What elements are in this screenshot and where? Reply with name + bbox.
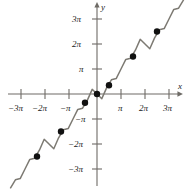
- marked-point: [154, 28, 160, 34]
- marked-point: [106, 82, 112, 88]
- marked-point: [34, 153, 40, 159]
- x-tick-label-pos3pi: 3π: [163, 104, 172, 113]
- y-tick-label-neg2pi: −2π: [68, 140, 83, 149]
- y-tick-label-pos1pi: π: [79, 65, 84, 74]
- function-graph-figure: −3π −2π −π π 2π 3π 3π 2π π −π −2π −3π x …: [0, 0, 191, 192]
- y-tick-label-neg1pi: −π: [75, 115, 86, 124]
- y-tick-label-pos3pi: 3π: [72, 15, 81, 24]
- x-tick-label-neg1pi: −π: [60, 104, 71, 113]
- x-tick-label-pos1pi: π: [118, 104, 123, 113]
- x-axis-label: x: [178, 82, 182, 91]
- x-tick-label-neg3pi: −3π: [8, 104, 23, 113]
- plot-canvas: [0, 0, 191, 192]
- y-axis-label: y: [101, 3, 105, 12]
- x-tick-label-neg2pi: −2π: [32, 104, 47, 113]
- y-tick-label-pos2pi: 2π: [72, 40, 81, 49]
- y-tick-label-neg3pi: −3π: [68, 165, 83, 174]
- marked-point: [130, 53, 136, 59]
- marked-point: [94, 91, 100, 97]
- marked-point: [58, 128, 64, 134]
- x-tick-label-pos2pi: 2π: [139, 104, 148, 113]
- marked-point: [82, 100, 88, 106]
